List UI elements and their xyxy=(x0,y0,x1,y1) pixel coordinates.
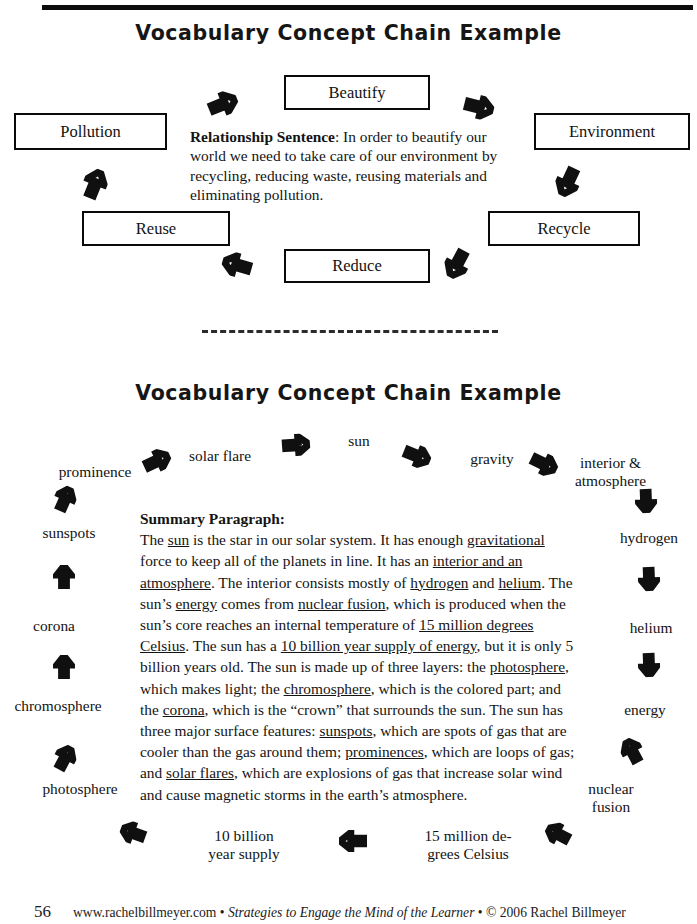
arrow-interior-to-hydrogen xyxy=(635,489,658,514)
concept-box-label: Reduce xyxy=(332,256,381,276)
chain-word-helium[interactable]: helium xyxy=(613,619,689,637)
chain-word-gravity[interactable]: gravity xyxy=(456,450,528,468)
summary-paragraph-heading: Summary Paragraph: xyxy=(140,508,575,529)
concept-box-label: Beautify xyxy=(329,83,386,103)
summary-text: and xyxy=(468,574,498,591)
vocabulary-term: sunspots xyxy=(319,722,372,739)
concept-box-label: Environment xyxy=(569,122,655,142)
chain-word-10-billion-year-supply[interactable]: 10 billion year supply xyxy=(188,827,300,863)
summary-text: comes from xyxy=(217,595,298,612)
arrow-pollution-to-beautify xyxy=(205,87,242,120)
arrow-beautify-to-environment xyxy=(462,92,497,123)
vocabulary-term: prominences xyxy=(345,743,424,760)
concept-box-label: Recycle xyxy=(537,219,590,239)
chain-word-interior-atmosphere[interactable]: interior & atmosphere xyxy=(563,454,658,490)
vocabulary-term: energy xyxy=(176,595,218,612)
page-title-concept-chain-1: Vocabulary Concept Chain Example xyxy=(0,21,697,45)
chain-word-nuclear-fusion[interactable]: nuclear fusion xyxy=(573,780,649,816)
arrow-15-million-to-10-billion xyxy=(339,830,367,852)
vocabulary-term: nuclear fusion xyxy=(298,595,386,612)
arrow-gravity-to-interior xyxy=(527,448,562,480)
arrow-reduce-to-reuse xyxy=(219,249,254,280)
concept-box-label: Reuse xyxy=(136,219,176,239)
chain-word-corona[interactable]: corona xyxy=(12,617,96,635)
footer-website: www.rachelbillmeyer.com xyxy=(73,905,216,920)
arrow-solar-flare-to-sun xyxy=(281,433,310,457)
vocabulary-term: 10 billion year supply of energy xyxy=(281,637,477,654)
top-rule xyxy=(42,5,693,10)
concept-box-recycle[interactable]: Recycle xyxy=(488,211,640,246)
concept-box-label: Pollution xyxy=(60,122,121,142)
footer-copyright: © 2006 Rachel Billmeyer xyxy=(486,905,626,920)
chain-word-sunspots[interactable]: sunspots xyxy=(28,524,110,542)
section-divider-dashed xyxy=(202,330,498,333)
vocabulary-term: gravitational xyxy=(467,531,545,548)
concept-box-reduce[interactable]: Reduce xyxy=(284,249,430,283)
summary-paragraph-body: The sun is the star in our solar system.… xyxy=(140,531,574,802)
arrow-energy-to-nuclear-fusion xyxy=(616,734,648,767)
vocabulary-term: photosphere xyxy=(490,658,565,675)
summary-text: is the star in our solar system. It has … xyxy=(189,531,467,548)
arrow-environment-to-recycle xyxy=(551,163,585,200)
vocabulary-term: chromosphere xyxy=(284,680,371,697)
footer-bullet-1: • xyxy=(220,905,225,920)
summary-text: The xyxy=(140,531,168,548)
vocabulary-term: solar flares xyxy=(166,764,234,781)
footer-book-title: Strategies to Engage the Mind of the Lea… xyxy=(228,905,475,920)
vocabulary-term: helium xyxy=(498,574,541,591)
vocabulary-term: corona xyxy=(163,701,205,718)
relationship-sentence-heading: Relationship Sentence xyxy=(190,128,335,145)
chain-word-solar-flare[interactable]: solar flare xyxy=(172,447,268,465)
chain-word-energy[interactable]: energy xyxy=(607,701,683,719)
arrow-helium-to-energy xyxy=(638,653,661,678)
summary-paragraph: Summary Paragraph: The sun is the star i… xyxy=(140,508,575,805)
concept-box-environment[interactable]: Environment xyxy=(534,113,690,150)
arrow-hydrogen-to-helium xyxy=(638,567,661,592)
arrow-chromosphere-to-corona xyxy=(53,655,75,679)
summary-text: . The sun has a xyxy=(185,637,280,654)
arrow-recycle-to-reduce xyxy=(439,245,474,283)
concept-box-beautify[interactable]: Beautify xyxy=(284,75,430,110)
arrow-photosphere-to-chromosphere xyxy=(49,741,81,774)
chain-word-sun[interactable]: sun xyxy=(330,432,388,450)
arrow-10-billion-to-photosphere xyxy=(117,818,149,848)
chain-word-chromosphere[interactable]: chromosphere xyxy=(0,697,118,715)
concept-box-pollution[interactable]: Pollution xyxy=(14,113,167,150)
relationship-sentence: Relationship Sentence: In order to beaut… xyxy=(190,127,508,205)
arrow-sunspots-to-prominence xyxy=(50,483,81,516)
chain-word-15-million-degrees[interactable]: 15 million de- grees Celsius xyxy=(408,827,528,863)
worksheet-page: Vocabulary Concept Chain Example Beautif… xyxy=(0,0,697,924)
concept-box-reuse[interactable]: Reuse xyxy=(82,211,230,246)
chain-word-hydrogen[interactable]: hydrogen xyxy=(608,529,690,547)
page-number: 56 xyxy=(34,902,51,922)
chain-word-photosphere[interactable]: photosphere xyxy=(28,780,132,798)
arrow-fusion-to-15-million xyxy=(541,818,574,850)
arrow-reuse-to-pollution xyxy=(78,166,111,203)
vocabulary-term: hydrogen xyxy=(410,574,468,591)
summary-text: force to keep all of the planets in line… xyxy=(140,552,433,569)
arrow-corona-to-sunspots xyxy=(53,565,75,589)
footer-credit: www.rachelbillmeyer.com • Strategies to … xyxy=(73,905,626,921)
arrow-sun-to-gravity xyxy=(400,441,434,472)
chain-word-prominence[interactable]: prominence xyxy=(42,463,148,481)
page-title-concept-chain-2: Vocabulary Concept Chain Example xyxy=(0,381,697,405)
footer-bullet-2: • xyxy=(478,905,483,920)
vocabulary-term: sun xyxy=(168,531,189,548)
summary-text: . The interior consists mostly of xyxy=(211,574,410,591)
page-footer: 56 www.rachelbillmeyer.com • Strategies … xyxy=(0,902,697,922)
